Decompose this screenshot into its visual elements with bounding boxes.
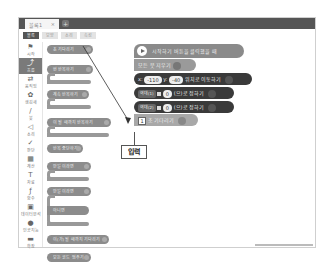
- flow-icon: [104, 120, 109, 125]
- category-brush[interactable]: ∕붓: [19, 106, 42, 122]
- block-palette: 초 기다리기 번 반복하기 계속 반복하기 이 될 때까지 반복하기 반복 중단…: [47, 42, 131, 243]
- flow-icon: [102, 237, 107, 242]
- callout-line: [134, 132, 135, 145]
- flow-icon: [82, 92, 87, 97]
- palette-wait-block[interactable]: 초 기다리기: [47, 45, 93, 54]
- data-icon: [208, 90, 216, 98]
- judge-icon: ✓: [19, 139, 42, 147]
- brush-icon: [173, 62, 181, 70]
- value-input-2[interactable]: 0: [163, 104, 172, 112]
- play-icon: [137, 46, 147, 56]
- subtab-sound[interactable]: 소리: [61, 32, 77, 39]
- category-flow[interactable]: ⤴흐름: [19, 58, 42, 74]
- flow-icon: [84, 164, 89, 169]
- move-to-xy-block[interactable]: x: -110 y: -40 위치로 이동하기: [134, 73, 252, 85]
- horizontal-scrollbar[interactable]: [255, 244, 313, 246]
- clear-brush-block[interactable]: 모든 붓 지우기: [134, 59, 196, 71]
- when-start-clicked-block[interactable]: 시작하기 버튼을 클릭했을 때: [134, 44, 244, 58]
- subtab-block[interactable]: 블록: [23, 32, 39, 39]
- add-tab-button[interactable]: +: [62, 20, 69, 27]
- category-data[interactable]: T자료: [19, 170, 42, 186]
- extension-icon: ▬: [19, 235, 42, 243]
- sound-icon: ◁: [19, 123, 42, 131]
- palette-wait-until-block[interactable]: 이(가) 될 때까지 기다리기: [47, 235, 109, 244]
- flow-icon: [86, 67, 91, 72]
- flag-icon: ⚑: [19, 43, 42, 51]
- category-ai[interactable]: ●인공지능: [19, 218, 42, 234]
- y-input[interactable]: -40: [169, 76, 183, 84]
- variable-dropdown-1[interactable]: 역대(1): [138, 90, 156, 98]
- input-callout: 입력: [121, 145, 147, 159]
- workspace[interactable]: 시작하기 버튼을 클릭했을 때 모든 붓 지우기 x: -110 y: -40 …: [134, 42, 315, 241]
- category-function[interactable]: ƒ함수: [19, 186, 42, 202]
- move-icon: ⇄: [19, 75, 42, 83]
- ai-icon: ●: [19, 219, 42, 227]
- flow-icon: [86, 47, 91, 52]
- looks-icon: ✿: [19, 91, 42, 99]
- flow-icon: [84, 189, 89, 194]
- move-icon: [225, 76, 233, 84]
- entry-editor-window: 블록1× + 블록 모양 소리 속성 ⚑시작 ⤴흐름 ⇄움직임 ✿생김새 ∕붓 …: [18, 17, 316, 248]
- category-looks[interactable]: ✿생김새: [19, 90, 42, 106]
- data-icon: T: [19, 171, 42, 179]
- flow-icon: [76, 146, 81, 151]
- set-variable-2-block[interactable]: 역대(2) 0 (으)로 정하기: [134, 101, 234, 113]
- brush-icon: ∕: [19, 107, 42, 115]
- palette-break-block[interactable]: 반복 중단하기: [47, 144, 83, 153]
- palette-repeat-until-block[interactable]: 이 될 때까지 반복하기: [47, 118, 111, 127]
- category-extension[interactable]: ▬확장: [19, 234, 42, 250]
- tab-block1[interactable]: 블록1×: [25, 19, 59, 29]
- close-icon[interactable]: ×: [51, 21, 55, 27]
- subtab-property[interactable]: 속성: [80, 32, 96, 39]
- analysis-icon: ▣: [19, 203, 42, 211]
- data-icon: [208, 104, 216, 112]
- flow-icon: [178, 117, 186, 125]
- category-judge[interactable]: ✓판단: [19, 138, 42, 154]
- category-list: ⚑시작 ⤴흐름 ⇄움직임 ✿생김새 ∕붓 ◁소리 ✓판단 ▦계산 T자료 ƒ함수…: [19, 42, 43, 247]
- seconds-input[interactable]: 1: [138, 117, 146, 125]
- palette-else-label: 아니면: [47, 206, 89, 215]
- palette-stop-all-block[interactable]: 모든 코드 멈추기: [47, 253, 91, 262]
- wait-seconds-block[interactable]: 1 초 기다리기: [134, 114, 198, 126]
- subtab-shape[interactable]: 모양: [42, 32, 58, 39]
- set-variable-1-block[interactable]: 역대(1) 0 (으)로 정하기: [134, 87, 234, 99]
- category-start[interactable]: ⚑시작: [19, 42, 42, 58]
- flow-icon: ⤴: [19, 59, 42, 67]
- function-icon: ƒ: [19, 187, 42, 195]
- category-analysis[interactable]: ▣데이터분석: [19, 202, 42, 218]
- category-calc[interactable]: ▦계산: [19, 154, 42, 170]
- category-move[interactable]: ⇄움직임: [19, 74, 42, 90]
- category-sound[interactable]: ◁소리: [19, 122, 42, 138]
- subtabs: 블록 모양 소리 속성: [23, 32, 96, 39]
- top-bar: 블록1× +: [19, 18, 315, 29]
- flow-icon: [84, 255, 89, 260]
- x-input[interactable]: -110: [144, 76, 161, 84]
- value-input-1[interactable]: 0: [163, 90, 172, 98]
- calc-icon: ▦: [19, 155, 42, 163]
- variable-dropdown-2[interactable]: 역대(2): [138, 104, 156, 112]
